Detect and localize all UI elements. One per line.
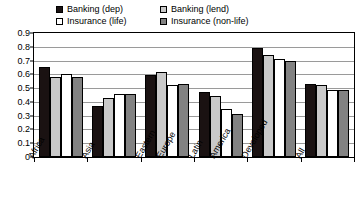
bar [50,77,61,157]
legend-swatch-icon [160,18,167,25]
x-axis-labels: AfricaAsiaEasternEuropeLatinAmericaDevel… [33,160,355,221]
legend-swatch-icon [56,18,63,25]
y-axis-tick-label: 0.8 [17,42,30,52]
bar-group [305,33,349,157]
chart-legend: Banking (dep)Banking (lend)Insurance (li… [56,3,286,27]
legend-label: Insurance (non-life) [171,16,249,27]
legend-label: Banking (dep) [67,4,123,15]
x-axis-category-label: LatinAmerica [195,160,248,221]
x-axis-category-label: Developed [248,160,301,221]
y-axis-tick-label: 0.3 [17,111,30,121]
legend-swatch-icon [160,6,167,13]
legend-entry: Insurance (life) [56,16,160,27]
y-axis: 0.90.80.70.60.50.40.30.20.10 [0,32,30,158]
bar [61,74,72,157]
legend-entry: Banking (lend) [160,4,286,15]
x-axis-category-label: All [302,160,355,221]
bar [125,94,136,157]
bar-chart: Banking (dep)Banking (lend)Insurance (li… [0,0,364,221]
bar [338,90,349,157]
y-axis-tick-label: 0.5 [17,83,30,93]
bar [178,84,189,157]
bar-group [92,33,136,157]
legend-swatch-icon [56,6,63,13]
bar [72,77,83,157]
bar [327,90,338,158]
y-axis-tick-label: 0.4 [17,97,30,107]
legend-entry: Insurance (non-life) [160,16,286,27]
bars-layer [34,33,354,157]
bar [305,84,316,157]
bar [263,55,274,157]
bar [285,61,296,157]
bar [114,94,125,157]
x-axis-category-label: Africa [35,160,88,221]
x-axis-category-label: Asia [88,160,141,221]
legend-label: Banking (lend) [171,4,229,15]
legend-entry: Banking (dep) [56,4,160,15]
y-axis-tick-label: 0.6 [17,69,30,79]
bar [274,59,285,157]
x-axis-category-label: EasternEurope [142,160,195,221]
legend-label: Insurance (life) [67,16,127,27]
y-axis-tick-label: 0.2 [17,124,30,134]
y-axis-tick-label: 0.7 [17,56,30,66]
bar [103,98,114,157]
y-axis-tick-label: 0.1 [17,138,30,148]
bar [316,85,327,157]
y-axis-tick-label: 0.9 [17,28,30,38]
